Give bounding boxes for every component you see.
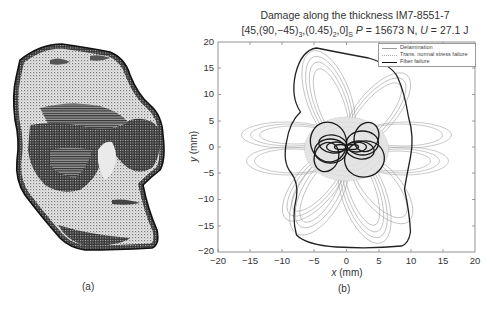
legend-label: Trans. normal stress failure	[400, 51, 468, 57]
legend-swatch-delamination	[382, 48, 397, 49]
y-tick: 10	[196, 88, 214, 99]
y-tick: 15	[196, 62, 214, 73]
x-tick: 0	[332, 255, 362, 266]
x-tick: 5	[364, 255, 394, 266]
y-tick: −15	[190, 220, 214, 231]
y-tick: −10	[190, 193, 214, 204]
x-tick: 20	[460, 255, 490, 266]
legend-swatch-fiber	[382, 62, 397, 63]
x-axis-label: x (mm)	[320, 267, 374, 278]
y-tick: 5	[196, 115, 214, 126]
x-tick: 15	[428, 255, 458, 266]
y-axis-label: y (mm)	[188, 122, 199, 172]
x-tick: −10	[267, 255, 297, 266]
legend-item-fiber: Fiber failure	[379, 58, 475, 65]
legend-item-delamination: Delamination	[379, 44, 475, 51]
y-tick: −5	[196, 167, 214, 178]
y-tick: 0	[196, 141, 214, 152]
y-axis-var: y	[188, 157, 199, 162]
y-tick: 20	[196, 36, 214, 47]
x-tick: −5	[299, 255, 329, 266]
legend-item-trans: Trans. normal stress failure	[379, 51, 475, 58]
x-tick: 10	[396, 255, 426, 266]
legend-label: Fiber failure	[400, 58, 430, 64]
legend: Delamination Trans. normal stress failur…	[378, 43, 476, 67]
legend-swatch-trans	[382, 55, 397, 56]
y-axis-unit: (mm)	[188, 131, 199, 157]
legend-label: Delamination	[400, 44, 433, 50]
x-tick: −20	[203, 255, 233, 266]
x-axis-unit: (mm)	[336, 267, 362, 278]
x-tick: −15	[235, 255, 265, 266]
panel-b-label: (b)	[338, 283, 350, 294]
